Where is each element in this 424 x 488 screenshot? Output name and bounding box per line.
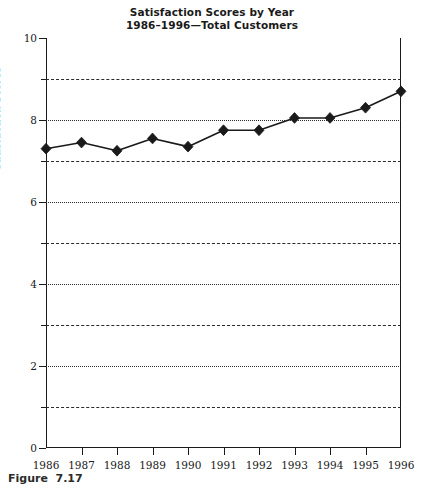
data-point-1990: [183, 141, 193, 152]
y-tick-major-2: [39, 366, 46, 367]
x-tick-1988: [117, 448, 118, 455]
chart-title-line2: 1986–1996—Total Customers: [0, 19, 424, 32]
y-tick-label-8: 8: [7, 115, 37, 125]
data-point-1993: [290, 113, 300, 124]
y-tick-major-8: [39, 120, 46, 121]
series-line: [46, 91, 401, 150]
data-point-1994: [325, 113, 335, 124]
data-point-1991: [219, 125, 229, 136]
x-tick-1991: [224, 448, 225, 455]
chart-title-line1: Satisfaction Scores by Year: [0, 6, 424, 19]
y-tick-major-6: [39, 202, 46, 203]
x-tick-1993: [295, 448, 296, 455]
plot-area: [46, 38, 401, 448]
data-point-1986: [41, 143, 51, 154]
x-tick-label-1996: 1996: [379, 460, 423, 471]
x-tick-1990: [188, 448, 189, 455]
x-tick-1994: [330, 448, 331, 455]
data-point-1995: [361, 102, 371, 113]
figure-caption: Figure 7.17: [8, 472, 208, 488]
x-tick-1992: [259, 448, 260, 455]
data-point-1987: [77, 137, 87, 148]
y-tick-label-6: 6: [7, 197, 37, 207]
chart-title: Satisfaction Scores by Year 1986–1996—To…: [0, 6, 424, 32]
y-tick-label-0: 0: [7, 443, 37, 453]
x-tick-1989: [153, 448, 154, 455]
y-tick-label-4: 4: [7, 279, 37, 289]
x-tick-1995: [366, 448, 367, 455]
y-tick-major-10: [39, 38, 46, 39]
y-tick-label-10: 10: [7, 33, 37, 43]
chart-figure: Satisfaction Scores by Year 1986–1996—To…: [0, 0, 424, 488]
data-point-1996: [396, 86, 406, 97]
y-tick-major-0: [39, 448, 46, 449]
y-axis-label: Satisfaction Scores: [0, 30, 2, 170]
data-series-total-customers: [46, 38, 401, 448]
data-point-1988: [112, 145, 122, 156]
data-point-1992: [254, 125, 264, 136]
y-tick-label-2: 2: [7, 361, 37, 371]
x-tick-1987: [82, 448, 83, 455]
data-point-1989: [148, 133, 158, 144]
y-tick-major-4: [39, 284, 46, 285]
